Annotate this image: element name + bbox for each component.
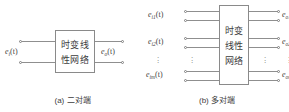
network-block-a-line2: 性网络	[61, 53, 89, 66]
wire-output-1-top-b	[249, 11, 278, 12]
label-input-m-b: eim(t)	[146, 71, 163, 79]
network-block-b-line2: 线性	[225, 39, 244, 52]
wire-input-top-a	[22, 41, 55, 42]
wire-output-bottom-a	[95, 62, 122, 63]
terminal-input-2-top-b	[184, 37, 187, 40]
terminal-output-n-top-b	[277, 70, 280, 73]
network-block-a-line1: 时变线	[61, 38, 89, 51]
label-input-m-arg-b: (t)	[155, 70, 163, 79]
ellipsis-input-labels-b: ...	[157, 55, 159, 63]
terminal-output-2-bottom-b	[277, 46, 280, 49]
terminal-input-top-a	[19, 40, 22, 43]
label-input-m-sub-b: im	[150, 74, 156, 80]
wire-input-2-top-b	[187, 38, 219, 39]
wire-input-m-top-b	[187, 71, 219, 72]
label-output-n-sub-b: on	[286, 74, 289, 80]
wire-output-1-bottom-b	[249, 20, 278, 21]
figure-root: 时变线 性网络 ei(t) eo(t) (a) 二对端	[0, 0, 289, 112]
caption-panel-a: (a) 二对端	[0, 94, 145, 105]
network-block-b-line3: 网络	[225, 54, 244, 67]
label-output-1-b: eo1(t)	[282, 11, 289, 19]
panel-multi-port: 时变 线性 网络 ei1(t) ei2(t) eim(t) eo1(t) eo2…	[145, 0, 289, 112]
terminal-output-n-bottom-b	[277, 79, 280, 82]
terminal-input-bottom-a	[19, 61, 22, 64]
caption-panel-b: (b) 多对端	[145, 94, 289, 105]
label-output-a: eo(t)	[101, 48, 115, 56]
terminal-input-1-top-b	[184, 10, 187, 13]
terminal-input-m-top-b	[184, 70, 187, 73]
terminal-output-top-a	[121, 40, 124, 43]
wire-input-1-bottom-b	[187, 20, 219, 21]
ellipsis-input-terminals-b: ...	[191, 55, 193, 63]
wire-output-top-a	[95, 41, 122, 42]
wire-output-2-top-b	[249, 38, 278, 39]
terminal-output-1-top-b	[277, 10, 280, 13]
terminal-input-2-bottom-b	[184, 46, 187, 49]
wire-input-2-bottom-b	[187, 47, 219, 48]
ellipsis-output-labels-b: ...	[288, 55, 289, 63]
label-input-1-arg-b: (t)	[156, 10, 164, 19]
wire-input-bottom-a	[22, 62, 55, 63]
wire-output-n-top-b	[249, 71, 278, 72]
label-input-2-b: ei2(t)	[148, 38, 163, 46]
label-output-a-sub: o	[105, 51, 108, 57]
label-input-2-sub-b: i2	[152, 41, 156, 47]
panel-two-port: 时变线 性网络 ei(t) eo(t) (a) 二对端	[0, 0, 145, 112]
network-block-b: 时变 线性 网络	[219, 5, 249, 85]
terminal-input-1-bottom-b	[184, 19, 187, 22]
label-input-a: ei(t)	[5, 48, 18, 56]
wire-output-n-bottom-b	[249, 80, 278, 81]
label-input-a-arg: (t)	[10, 47, 18, 56]
wire-output-2-bottom-b	[249, 47, 278, 48]
network-block-b-line1: 时变	[225, 24, 244, 37]
ellipsis-output-terminals-b: ...	[264, 55, 266, 63]
terminal-output-2-top-b	[277, 37, 280, 40]
label-output-n-b: eon(t)	[282, 71, 289, 79]
label-input-2-arg-b: (t)	[156, 37, 164, 46]
terminal-output-bottom-a	[121, 61, 124, 64]
label-output-2-b: eo2(t)	[282, 38, 289, 46]
label-input-a-sub: i	[9, 51, 11, 57]
terminal-input-m-bottom-b	[184, 79, 187, 82]
label-input-1-sub-b: i1	[152, 14, 156, 20]
wire-input-m-bottom-b	[187, 80, 219, 81]
label-output-a-arg: (t)	[107, 47, 115, 56]
label-output-2-sub-b: o2	[286, 41, 289, 47]
label-output-1-sub-b: o1	[286, 14, 289, 20]
label-input-1-b: ei1(t)	[148, 11, 163, 19]
terminal-output-1-bottom-b	[277, 19, 280, 22]
wire-input-1-top-b	[187, 11, 219, 12]
network-block-a: 时变线 性网络	[55, 30, 95, 73]
